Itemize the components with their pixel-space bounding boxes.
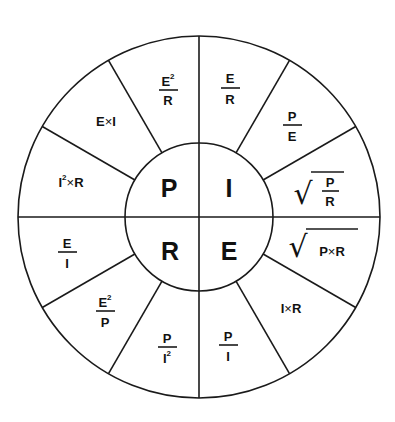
formula-sqrt-p-over-r: √ P R [293, 172, 344, 211]
svg-text:I: I [65, 256, 69, 271]
formula-e2-over-r: E2 R [159, 72, 178, 108]
svg-text:P: P [326, 175, 335, 190]
svg-text:E2: E2 [161, 72, 175, 89]
svg-text:P: P [101, 315, 110, 330]
svg-text:I2×R: I2×R [58, 173, 84, 190]
center-label-e: E [221, 237, 238, 265]
svg-text:P: P [163, 331, 172, 346]
pire-wheel-diagram: P I R E I2×R E×I E2 R E R P E √ P R √ P×… [0, 0, 395, 422]
center-label-i: I [226, 174, 233, 202]
radical-icon: √ [288, 229, 308, 264]
formula-e2-over-p: E2 P [96, 293, 115, 330]
formula-p-over-i: P I [219, 329, 238, 364]
svg-text:E×I: E×I [96, 114, 116, 129]
center-label-p: P [161, 174, 178, 202]
formula-e-times-i: E×I [96, 114, 116, 129]
svg-text:E: E [63, 236, 72, 251]
svg-text:R: R [325, 194, 335, 209]
formula-p-over-i2: P I2 [158, 331, 177, 366]
svg-text:I2: I2 [163, 349, 172, 366]
svg-text:P×R: P×R [319, 244, 345, 259]
formula-i-times-r: I×R [281, 301, 302, 316]
formula-sqrt-p-times-r: √ P×R [288, 229, 358, 264]
svg-text:E2: E2 [98, 293, 112, 310]
center-label-r: R [161, 237, 179, 265]
svg-text:I×R: I×R [281, 301, 302, 316]
svg-text:P: P [288, 109, 297, 124]
formula-e-over-i: E I [58, 236, 77, 271]
radical-icon: √ [293, 176, 313, 211]
svg-text:R: R [163, 93, 173, 108]
formula-e-over-r: E R [221, 71, 240, 107]
svg-text:I: I [226, 349, 230, 364]
svg-text:P: P [224, 329, 233, 344]
formula-i2-times-r: I2×R [58, 173, 84, 190]
formula-p-over-e: P E [283, 109, 302, 144]
svg-text:E: E [288, 129, 297, 144]
svg-text:E: E [226, 71, 235, 86]
svg-text:R: R [225, 92, 235, 107]
